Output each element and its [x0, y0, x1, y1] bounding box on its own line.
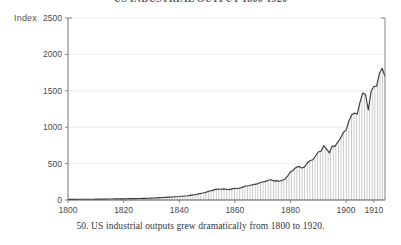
x-tick-label: 1800: [59, 205, 78, 215]
figure-caption: 50. US industrial outputs grew dramatica…: [0, 221, 401, 231]
y-tick-label: 1000: [43, 122, 62, 132]
figure-container: US INDUSTRIAL OUTPUT 1800-1920 Index 050…: [0, 0, 401, 245]
x-tick-labels: 1800182018401860188019001910: [59, 205, 384, 215]
x-tick-label: 1840: [170, 205, 189, 215]
x-tick-label: 1900: [337, 205, 356, 215]
y-tick-label: 1500: [43, 86, 62, 96]
y-tick-label: 500: [48, 159, 62, 169]
x-tick-label: 1880: [281, 205, 300, 215]
chart-svg: 05001000150020002500 1800182018401860188…: [0, 0, 401, 215]
x-tick-label: 1910: [364, 205, 383, 215]
x-tick-label: 1860: [225, 205, 244, 215]
y-tick-label: 0: [57, 195, 62, 205]
y-tick-label: 2000: [43, 49, 62, 59]
plot-area: 05001000150020002500 1800182018401860188…: [0, 0, 401, 215]
x-tick-label: 1820: [114, 205, 133, 215]
y-tick-label: 2500: [43, 13, 62, 23]
y-tick-labels: 05001000150020002500: [43, 13, 62, 205]
